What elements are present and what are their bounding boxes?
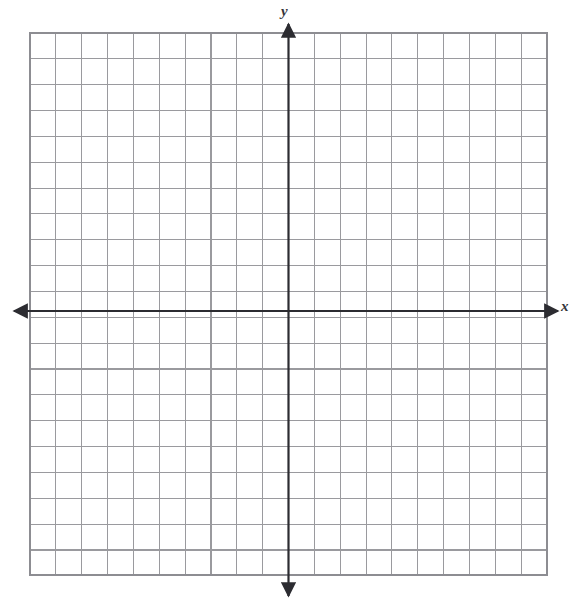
- grid-canvas: [0, 0, 586, 603]
- y-axis-label: y: [281, 4, 288, 19]
- x-axis-label: x: [561, 299, 569, 314]
- coordinate-grid-figure: y x: [0, 0, 586, 603]
